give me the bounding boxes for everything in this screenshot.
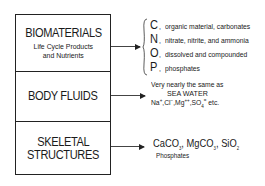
body-fluids-title: BODY FLUIDS <box>28 90 97 103</box>
element-symbol: P <box>150 59 159 74</box>
element-row-p: P , phosphates <box>150 59 204 74</box>
element-description: phosphates <box>165 64 200 73</box>
biomaterials-box: BIOMATERIALS Life Cycle Products and Nut… <box>16 15 110 72</box>
body-fluids-ions: Na+,Cl−,Mg++,SO4= etc. <box>151 98 219 107</box>
brace-icon <box>142 18 148 76</box>
body-fluids-line1: Very nearly the same as <box>151 80 223 89</box>
element-symbol: C <box>150 17 159 32</box>
element-description: dissolved and compounded <box>165 50 247 59</box>
category-stack: BIOMATERIALS Life Cycle Products and Nut… <box>15 14 111 175</box>
element-row-o: O , dissolved and compounded <box>150 45 256 60</box>
arrow-biomaterials <box>111 46 140 47</box>
skeletal-title-2: STRUCTURES <box>27 149 99 162</box>
element-symbol: N <box>150 31 159 46</box>
biomaterials-subtitle-1: Life Cycle Products <box>33 42 92 51</box>
element-symbol: O <box>150 45 159 60</box>
element-row-c: C , organic material, carbonates <box>150 17 260 32</box>
body-fluids-box: BODY FLUIDS <box>16 72 110 122</box>
arrow-skeletal <box>111 146 144 147</box>
biomaterials-subtitle-2: and Nutrients <box>42 51 83 60</box>
skeletal-phosphates: Phosphates <box>156 152 189 159</box>
skeletal-structures-box: SKELETAL STRUCTURES <box>16 122 110 175</box>
biomaterials-title: BIOMATERIALS <box>25 27 101 40</box>
element-description: organic material, carbonates <box>165 22 250 31</box>
element-row-n: N , nitrate, nitrite, and ammonia <box>150 31 258 46</box>
skeletal-compounds: CaCO3, MgCO3, SiO2 <box>153 137 239 149</box>
element-description: nitrate, nitrite, and ammonia <box>165 36 249 45</box>
arrow-body-fluids <box>111 95 145 96</box>
